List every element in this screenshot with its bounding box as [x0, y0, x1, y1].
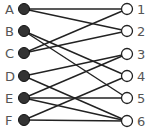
left-node-F	[19, 115, 30, 126]
left-node-D	[19, 71, 30, 82]
edge-C-2	[24, 31, 127, 53]
right-node-label: 5	[137, 91, 145, 106]
right-node-6	[122, 116, 133, 127]
left-node-label: F	[5, 113, 12, 128]
right-node-2	[122, 26, 133, 37]
edge-E-6	[24, 98, 127, 121]
right-node-label: 2	[137, 24, 145, 39]
left-node-label: D	[5, 69, 15, 84]
left-node-C	[19, 48, 30, 59]
left-node-label: C	[5, 46, 14, 61]
bipartite-graph: ABCDEF123456	[0, 0, 152, 139]
edge-D-3	[24, 54, 127, 76]
right-node-3	[122, 49, 133, 60]
right-node-label: 3	[137, 47, 145, 62]
edge-F-6	[24, 120, 127, 121]
edge-B-4	[24, 31, 127, 76]
edges	[24, 9, 127, 121]
left-node-label: E	[5, 91, 13, 106]
left-node-label: B	[5, 24, 14, 39]
edge-A-2	[24, 9, 127, 31]
right-node-label: 6	[137, 114, 145, 129]
left-node-label: A	[5, 2, 14, 17]
right-node-5	[122, 93, 133, 104]
edge-E-3	[24, 54, 127, 98]
left-node-E	[19, 93, 30, 104]
edge-C-1	[24, 9, 127, 53]
right-node-label: 1	[137, 2, 145, 17]
left-node-A	[19, 4, 30, 15]
right-node-1	[122, 4, 133, 15]
left-node-B	[19, 26, 30, 37]
right-node-4	[122, 71, 133, 82]
right-node-label: 4	[137, 69, 145, 84]
